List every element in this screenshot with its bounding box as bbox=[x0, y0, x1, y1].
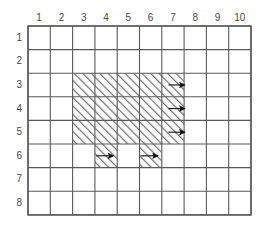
shaded-cell bbox=[73, 73, 95, 97]
shaded-cell bbox=[73, 120, 95, 144]
row-label: 8 bbox=[8, 197, 22, 209]
shaded-cell bbox=[140, 120, 162, 144]
row-label: 1 bbox=[8, 32, 22, 44]
grid-lines bbox=[28, 26, 251, 215]
column-label: 4 bbox=[95, 12, 117, 24]
grid-diagram-figure: 12345678910 12345678 bbox=[0, 0, 275, 235]
column-label: 1 bbox=[28, 12, 50, 24]
column-label: 8 bbox=[184, 12, 206, 24]
shaded-cell bbox=[117, 97, 139, 121]
row-label: 3 bbox=[8, 79, 22, 91]
row-label: 4 bbox=[8, 103, 22, 115]
shaded-cell bbox=[95, 120, 117, 144]
shaded-cell bbox=[140, 97, 162, 121]
row-label: 5 bbox=[8, 126, 22, 138]
row-label: 2 bbox=[8, 55, 22, 67]
column-label: 7 bbox=[162, 12, 184, 24]
grid-canvas bbox=[0, 0, 275, 235]
shaded-cell bbox=[73, 97, 95, 121]
column-label: 10 bbox=[229, 12, 251, 24]
column-label: 5 bbox=[117, 12, 139, 24]
shaded-cell bbox=[117, 120, 139, 144]
shaded-cell bbox=[140, 73, 162, 97]
column-label: 2 bbox=[50, 12, 72, 24]
column-label: 3 bbox=[73, 12, 95, 24]
shaded-cell bbox=[117, 73, 139, 97]
column-label: 9 bbox=[207, 12, 229, 24]
row-label: 7 bbox=[8, 173, 22, 185]
shaded-cell bbox=[95, 97, 117, 121]
row-label: 6 bbox=[8, 150, 22, 162]
shaded-cell bbox=[95, 73, 117, 97]
column-label: 6 bbox=[140, 12, 162, 24]
